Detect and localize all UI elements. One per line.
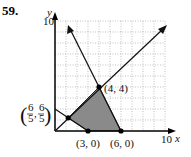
- point-6-0: [118, 128, 123, 133]
- label-4-4: (4, 4): [104, 82, 128, 95]
- x-axis-label: x: [174, 132, 180, 144]
- x-tick-10: 10: [161, 133, 173, 145]
- svg-text:): ): [44, 102, 51, 127]
- point-6-5: [66, 115, 71, 120]
- graph: y 10 10 x (4, 4) (3, 0) (6, 0) ( 6 5 , 6…: [0, 0, 191, 157]
- arrow-icon: [67, 25, 74, 34]
- svg-text:,: ,: [34, 107, 37, 119]
- label-3-0: (3, 0): [76, 137, 100, 150]
- svg-text:(: (: [20, 102, 27, 127]
- label-6-5: ( 6 5 , 6 5 ): [20, 101, 51, 127]
- y-tick-10: 10: [43, 15, 55, 27]
- point-3-0: [85, 128, 90, 133]
- label-6-0: (6, 0): [110, 137, 134, 150]
- point-4-4: [96, 84, 101, 89]
